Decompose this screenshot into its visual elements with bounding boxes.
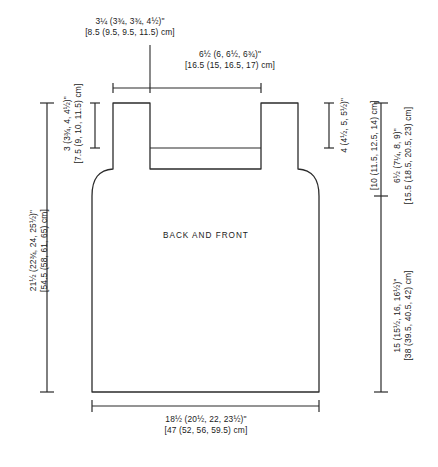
- label-total-length-imperial: 21½ (22¾, 24, 25½)": [28, 210, 38, 291]
- label-armhole-depth-metric: [10 (11.5, 12.5, 14) cm]: [369, 45, 380, 245]
- label-neck-depth-imperial: 3 (3¾, 4, 4½)": [62, 96, 72, 151]
- label-body-length-metric: [38 (39.5, 40.5, 42) cm]: [402, 211, 413, 421]
- dim-bottom-width: [92, 400, 319, 412]
- label-bottom-width-metric: [47 (52, 56, 59.5) cm]: [110, 425, 302, 436]
- label-bottom-width: 18½ (20½, 22, 23½)" [47 (52, 56, 59.5) c…: [110, 414, 302, 435]
- label-armhole-depth-metric-text: [10 (11.5, 12.5, 14) cm]: [369, 100, 379, 190]
- label-bottom-width-imperial: 18½ (20½, 22, 23½)": [165, 414, 246, 424]
- dim-armhole-upper: [324, 103, 334, 148]
- label-neck-width: 6½ (6, 6½, 6¾)" [16.5 (15, 16.5, 17) cm]: [145, 49, 315, 70]
- label-neck-depth-metric: [7.5 (9, 10, 11.5) cm]: [72, 44, 83, 204]
- label-total-length-metric: [54.5 (58, 61, 65) cm]: [38, 141, 49, 361]
- label-armhole-total-imperial: 6½ (7¼, 8, 9)": [392, 128, 402, 183]
- dim-neck-depth: [90, 103, 100, 148]
- label-shoulder-strap-imperial: 3¼ (3¾, 3¾, 4½)": [95, 16, 164, 26]
- label-shoulder-strap: 3¼ (3¾, 3¾, 4½)" [8.5 (9.5, 9.5, 11.5) c…: [20, 16, 240, 37]
- label-armhole-upper: 4 (4½, 5, 5½)": [339, 45, 350, 205]
- label-shoulder-strap-metric: [8.5 (9.5, 9.5, 11.5) cm]: [20, 27, 240, 38]
- garment-outline: [92, 103, 319, 392]
- label-neck-width-imperial: 6½ (6, 6½, 6¾)": [199, 49, 261, 59]
- label-neck-depth: 3 (3¾, 4, 4½)" [7.5 (9, 10, 11.5) cm]: [62, 44, 83, 204]
- label-body-length-imperial: 15 (15½, 16, 16½)": [392, 278, 402, 352]
- label-neck-width-metric: [16.5 (15, 16.5, 17) cm]: [145, 60, 315, 71]
- label-total-length: 21½ (22¾, 24, 25½)" [54.5 (58, 61, 65) c…: [28, 141, 49, 361]
- label-body-length: 15 (15½, 16, 16½)" [38 (39.5, 40.5, 42) …: [392, 211, 413, 421]
- label-armhole-upper-imperial: 4 (4½, 5, 5½)": [339, 98, 349, 153]
- piece-name-label: BACK AND FRONT: [163, 231, 249, 240]
- dim-shoulder-strap: [113, 83, 150, 93]
- dim-neck-width: [150, 83, 261, 93]
